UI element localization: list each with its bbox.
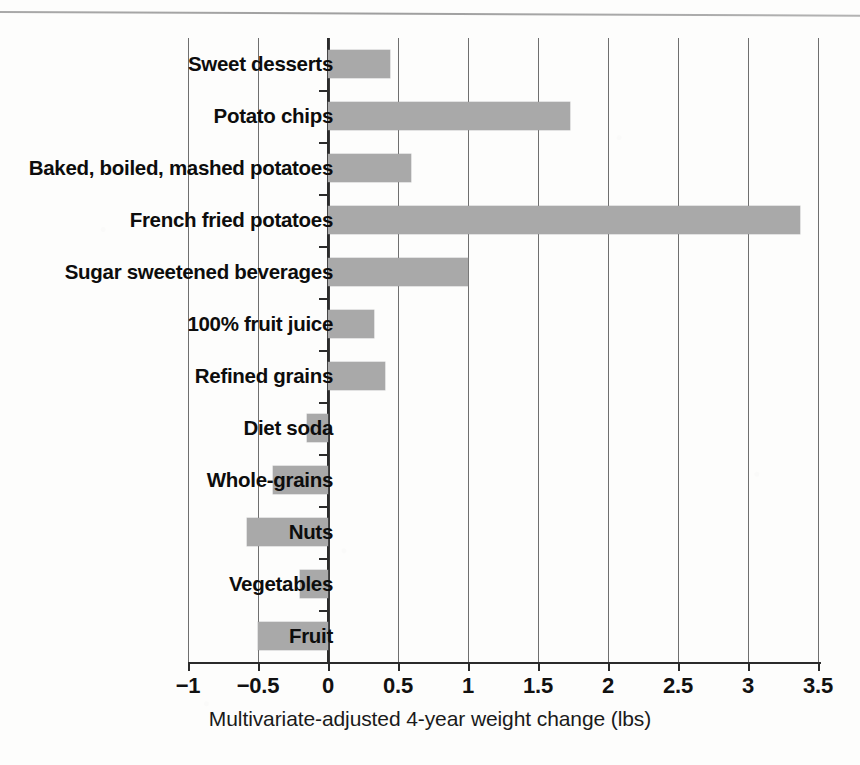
gridline <box>468 38 469 663</box>
gridline <box>538 38 539 663</box>
x-axis-title: Multivariate-adjusted 4-year weight chan… <box>0 707 860 731</box>
gridline <box>398 38 399 663</box>
x-tick-label: 2.5 <box>663 673 693 699</box>
category-labels: Sweet dessertsPotato chipsBaked, boiled,… <box>0 0 333 765</box>
x-tick-label: 3 <box>742 673 754 699</box>
x-tick-label: 2 <box>602 673 614 699</box>
x-tick-label: 1.5 <box>523 673 553 699</box>
bar <box>328 206 800 234</box>
x-axis-tick <box>398 664 400 671</box>
x-axis-tick <box>608 664 610 671</box>
x-axis-tick <box>678 664 680 671</box>
bar <box>328 154 411 182</box>
x-axis-tick <box>538 664 540 671</box>
category-label: Vegetables <box>0 572 333 596</box>
category-label: Refined grains <box>0 364 333 388</box>
category-label: Nuts <box>0 520 333 544</box>
bar <box>328 258 468 286</box>
category-label: Potato chips <box>0 104 333 128</box>
x-axis-tick <box>468 664 470 671</box>
category-label: Sweet desserts <box>0 52 333 76</box>
category-label: Fruit <box>0 624 333 648</box>
category-label: Diet soda <box>0 416 333 440</box>
bar <box>328 310 374 338</box>
category-label: Sugar sweetened beverages <box>0 260 333 284</box>
x-axis-tick <box>818 664 820 671</box>
x-tick-label: 0.5 <box>383 673 413 699</box>
gridline <box>818 38 819 663</box>
gridline <box>678 38 679 663</box>
bar <box>328 102 570 130</box>
bar <box>328 362 385 390</box>
gridline <box>608 38 609 663</box>
category-label: French fried potatoes <box>0 208 333 232</box>
category-label: Whole-grains <box>0 468 333 492</box>
x-axis-tick <box>748 664 750 671</box>
category-label: Baked, boiled, mashed potatoes <box>0 156 333 180</box>
bar <box>328 50 390 78</box>
gridline <box>748 38 749 663</box>
category-label: 100% fruit juice <box>0 312 333 336</box>
x-tick-label: 3.5 <box>803 673 833 699</box>
x-tick-label: 1 <box>462 673 474 699</box>
